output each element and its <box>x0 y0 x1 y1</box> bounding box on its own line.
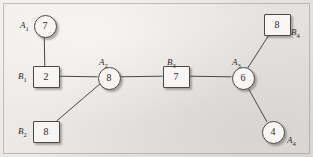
graph-node-label-a1: A1 <box>20 21 29 32</box>
graph-node-value: 2 <box>44 72 49 82</box>
graph-node-b3: 7 <box>163 66 190 88</box>
node-label-subscript: 4 <box>297 32 300 39</box>
graph-node-b4: 8 <box>264 14 291 36</box>
graph-edge-b1-a2 <box>58 76 98 77</box>
graph-edge-b3-a3 <box>188 76 232 77</box>
graph-node-a4: 4 <box>262 121 285 144</box>
graph-edge-a2-b3 <box>118 76 162 77</box>
node-label-subscript: 4 <box>293 140 296 147</box>
graph-node-b1: 2 <box>33 66 60 88</box>
graph-edge-a3-a4 <box>247 86 267 122</box>
graph-node-a1: 7 <box>34 15 57 38</box>
graph-figure: 72887684 A1B1B2A2B3A3B4A4 <box>0 0 313 157</box>
graph-node-value: 8 <box>275 20 280 30</box>
graph-node-b2: 8 <box>33 121 60 143</box>
graph-node-label-b2: B2 <box>18 127 27 138</box>
node-label-subscript: 1 <box>24 76 27 83</box>
graph-edge-a3-b4 <box>248 34 270 68</box>
graph-node-value: 7 <box>43 21 48 31</box>
graph-node-label-b3: B3 <box>167 58 176 69</box>
graph-node-label-a2: A2 <box>99 58 108 69</box>
graph-node-a3: 6 <box>232 67 255 90</box>
graph-node-value: 8 <box>44 127 49 137</box>
graph-node-label-a3: A3 <box>232 58 241 69</box>
node-label-subscript: 1 <box>26 25 29 32</box>
node-label-subscript: 3 <box>173 62 176 69</box>
graph-node-a2: 8 <box>98 67 121 90</box>
graph-node-value: 8 <box>107 73 112 83</box>
graph-node-value: 4 <box>271 127 276 137</box>
graph-node-value: 7 <box>174 72 179 82</box>
graph-edge-b2-a2 <box>57 84 100 121</box>
graph-node-label-a4: A4 <box>287 136 296 147</box>
graph-node-label-b4: B4 <box>291 28 300 39</box>
graph-node-value: 6 <box>241 73 246 83</box>
node-label-subscript: 3 <box>238 62 241 69</box>
graph-edge-a1-b1 <box>44 35 45 66</box>
graph-node-label-b1: B1 <box>18 72 27 83</box>
node-label-subscript: 2 <box>105 62 108 69</box>
node-label-subscript: 2 <box>24 131 27 138</box>
